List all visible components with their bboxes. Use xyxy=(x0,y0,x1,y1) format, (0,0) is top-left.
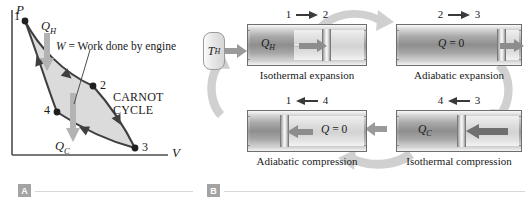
stage-3-transition-label: 1 4 xyxy=(247,94,367,106)
state-label-3: 3 xyxy=(142,141,148,153)
heat-in-symbol: Q xyxy=(41,19,50,33)
state-label-4: 4 xyxy=(44,104,50,116)
stage-adiabatic-compression: 1 4 Q = 0 Adiabatic compression xyxy=(247,94,367,172)
panel-a-pv-diagram: P V 1 2 3 4 QH QC W = Work done by engin… xyxy=(0,0,200,180)
arrow-left-icon xyxy=(296,97,318,105)
stage-2-to: 3 xyxy=(475,8,481,20)
panel-b-engine-stages: TH TC 1 2 QH xyxy=(200,0,532,180)
stage-1-piston-motion-arrow xyxy=(299,39,327,52)
state-label-2: 2 xyxy=(100,79,106,91)
stage-3-to: 1 xyxy=(286,94,292,106)
state-point-1 xyxy=(22,18,29,25)
panel-b-rule xyxy=(224,191,525,192)
stage-4-heat-label: QC xyxy=(418,123,432,138)
stage-isothermal-expansion: 1 2 QH Isothermal expansion xyxy=(247,8,367,84)
panel-a-rule xyxy=(35,191,193,192)
hot-reservoir-heat-arrow xyxy=(225,43,247,59)
stage-4-piston-motion-arrow xyxy=(466,124,508,139)
heat-out-symbol: Q xyxy=(55,139,64,153)
stage-1-to: 2 xyxy=(323,8,329,20)
stage-4-to: 4 xyxy=(438,94,444,106)
carnot-cycle-line-2: CYCLE xyxy=(113,104,164,117)
stage-1-transition-label: 1 2 xyxy=(247,8,367,20)
hot-reservoir: TH xyxy=(203,32,225,70)
stage-2-heat-text: = 0 xyxy=(446,37,464,49)
arrow-right-icon xyxy=(296,11,318,19)
heat-out-label: QC xyxy=(55,140,70,155)
panel-b-tag-row: B xyxy=(207,184,525,198)
stage-1-heat-label: QH xyxy=(261,37,275,52)
stage-4-caption: Isothermal compression xyxy=(396,155,522,167)
stage-2-heat-label: Q = 0 xyxy=(438,37,464,52)
heat-in-subscript: H xyxy=(50,26,56,36)
stage-4-heat-subscript: C xyxy=(426,129,431,138)
piston-head xyxy=(457,115,466,147)
stage-1-from: 1 xyxy=(286,8,292,20)
heat-in-label: QH xyxy=(41,20,56,35)
state-point-3 xyxy=(132,145,139,152)
state-label-1: 1 xyxy=(14,10,20,22)
hot-reservoir-subscript: H xyxy=(214,47,220,56)
stage-3-from: 4 xyxy=(323,94,329,106)
panel-a-tag-row: A xyxy=(18,184,193,198)
stage-1-caption: Isothermal expansion xyxy=(247,69,367,81)
panel-b-tag: B xyxy=(207,184,220,197)
work-done-label: W = Work done by engine xyxy=(56,41,176,53)
panel-a-tag: A xyxy=(18,184,31,197)
stage-2-caption: Adiabatic expansion xyxy=(396,69,522,81)
axis-label-volume: V xyxy=(172,146,180,159)
stage-isothermal-compression: 4 3 QC Isothermal compression xyxy=(396,94,522,172)
stage-3-heat-label: Q = 0 xyxy=(321,123,347,138)
stage-4-transition-label: 4 3 xyxy=(396,94,522,106)
work-symbol: W xyxy=(56,40,66,52)
carnot-cycle-label: CARNOT CYCLE xyxy=(113,91,164,118)
gas-region xyxy=(250,116,280,146)
arrow-right-icon xyxy=(448,11,470,19)
stage-3-caption: Adiabatic compression xyxy=(247,155,367,167)
stage-1-heat-subscript: H xyxy=(269,43,275,52)
stage-4-from: 3 xyxy=(475,94,481,106)
arrow-left-icon xyxy=(448,97,470,105)
stage-2-from: 2 xyxy=(438,8,444,20)
carnot-cycle-line-1: CARNOT xyxy=(113,91,164,104)
cold-reservoir-heat-arrow xyxy=(365,121,387,137)
state-point-2 xyxy=(90,83,97,90)
stage-adiabatic-expansion: 2 3 Q = 0 Adiabatic expansion xyxy=(396,8,522,84)
work-text: = Work done by engine xyxy=(66,40,176,52)
heat-out-subscript: C xyxy=(64,146,70,156)
stage-2-piston-motion-arrow xyxy=(500,39,524,52)
state-point-4 xyxy=(54,109,61,116)
stage-3-heat-text: = 0 xyxy=(329,123,347,135)
stage-2-transition-label: 2 3 xyxy=(396,8,522,20)
stage-3-piston-motion-arrow xyxy=(287,125,313,138)
